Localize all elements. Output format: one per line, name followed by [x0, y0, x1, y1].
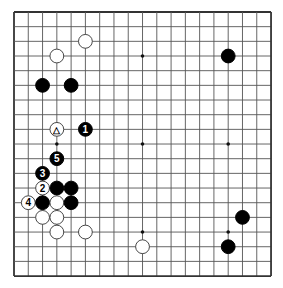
- white-stone: [36, 210, 50, 224]
- star-point: [141, 142, 145, 146]
- white-stone: [79, 34, 93, 48]
- white-stone: [79, 225, 93, 239]
- white-stone: [136, 240, 150, 254]
- star-point: [141, 230, 145, 234]
- white-stone: △: [50, 122, 64, 136]
- black-stone: [50, 181, 64, 195]
- go-board: △15324: [0, 0, 283, 288]
- black-stone: [221, 240, 235, 254]
- black-stone: [236, 210, 250, 224]
- move-number-label: 1: [83, 124, 89, 135]
- black-stone: [64, 196, 78, 210]
- star-point: [226, 230, 230, 234]
- white-stone: [50, 210, 64, 224]
- black-stone: 3: [36, 166, 50, 180]
- triangle-marker-icon: △: [52, 125, 61, 135]
- black-stone: [36, 196, 50, 210]
- white-stone: 4: [21, 196, 35, 210]
- black-stone: [36, 78, 50, 92]
- white-stone: [50, 196, 64, 210]
- star-point: [55, 142, 59, 146]
- black-stone: [64, 181, 78, 195]
- black-stone: 1: [79, 122, 93, 136]
- black-stone: 5: [50, 152, 64, 166]
- move-number-label: 3: [40, 168, 46, 179]
- move-number-label: 2: [40, 183, 46, 194]
- black-stone: [221, 49, 235, 63]
- black-stone: [64, 78, 78, 92]
- star-point: [141, 54, 145, 58]
- move-number-label: 5: [54, 153, 60, 164]
- white-stone: [50, 225, 64, 239]
- white-stone: [50, 49, 64, 63]
- star-point: [226, 142, 230, 146]
- white-stone: 2: [36, 181, 50, 195]
- move-number-label: 4: [25, 197, 31, 208]
